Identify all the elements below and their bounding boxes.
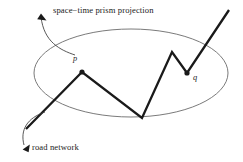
prism-leader-line: [41, 17, 75, 55]
figure-canvas: [0, 0, 243, 162]
road-network-polyline: [26, 10, 229, 129]
point-p-label: p: [73, 55, 77, 63]
prism-leader-arrowhead-icon: [37, 14, 46, 21]
road-network-label: road network: [32, 143, 79, 152]
prism-projection-ellipse: [34, 29, 228, 117]
prism-projection-label: space−time prism projection: [53, 6, 154, 15]
road-leader-arrowhead-icon: [23, 145, 30, 153]
vertex-marker-q: [184, 70, 189, 75]
space-time-prism-figure: space−time prism projection road network…: [0, 0, 243, 162]
vertex-marker-p: [79, 69, 84, 74]
point-q-label: q: [193, 74, 197, 82]
